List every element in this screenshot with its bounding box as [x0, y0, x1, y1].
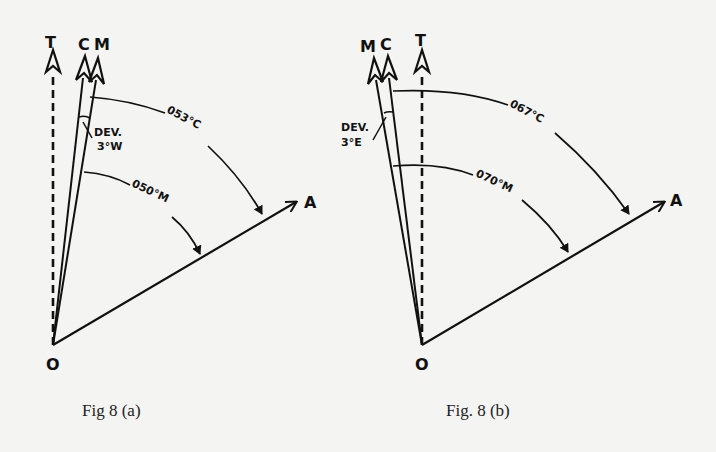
point-a-label: A	[670, 191, 683, 210]
figure-caption: Fig. 8 (b)	[446, 401, 510, 420]
compass-north-label: C	[380, 35, 392, 54]
magnetic-bearing-arc-2	[522, 200, 568, 252]
compass-bearing-label: 053°C	[165, 103, 203, 132]
deviation-label-2: 3°W	[97, 140, 122, 153]
origin-label: O	[415, 355, 429, 374]
magnetic-north-line	[376, 80, 422, 345]
compass-bearing-arc-1	[393, 91, 508, 105]
true-north-label: T	[415, 31, 426, 50]
compass-north-line	[389, 78, 422, 345]
compass-north-line	[53, 78, 83, 345]
figure-caption: Fig 8 (a)	[82, 401, 141, 420]
compass-bearing-label: 067°C	[508, 97, 546, 126]
magnetic-bearing-arc-1	[393, 165, 473, 175]
deviation-arc	[384, 112, 393, 113]
compass-bearing-arc-2	[208, 146, 262, 214]
deviation-label-2: 3°E	[341, 136, 362, 149]
magnetic-north-label: M	[360, 37, 376, 56]
bearing-diagrams: T C M A O DEV. 3°W 053°C 050°M Fig 8 (a)…	[0, 0, 716, 452]
compass-bearing-arc-2	[555, 133, 629, 214]
deviation-label-1: DEV.	[94, 126, 122, 139]
point-a-label: A	[304, 193, 317, 212]
compass-north-label: C	[78, 35, 90, 54]
deviation-arc	[79, 116, 90, 118]
deviation-label-1: DEV.	[341, 121, 369, 134]
magnetic-north-label: M	[94, 35, 110, 54]
true-north-label: T	[45, 33, 56, 52]
magnetic-bearing-arc-1	[84, 172, 130, 185]
magnetic-bearing-label: 050°M	[130, 177, 171, 205]
compass-bearing-arc-1	[90, 97, 165, 113]
true-north-arrowhead-icon	[46, 50, 60, 72]
magnetic-bearing-arc-2	[172, 217, 200, 254]
line-oa	[53, 202, 296, 345]
origin-label: O	[46, 355, 60, 374]
line-oa	[422, 202, 664, 345]
figure-a: T C M A O DEV. 3°W 053°C 050°M Fig 8 (a)	[45, 33, 317, 420]
magnetic-bearing-label: 070°M	[474, 167, 515, 195]
magnetic-north-line	[53, 80, 96, 345]
true-north-arrowhead-icon	[415, 50, 429, 72]
figure-b: T M C A O DEV. 3°E 067°C 070°M Fig. 8 (b…	[341, 31, 683, 420]
